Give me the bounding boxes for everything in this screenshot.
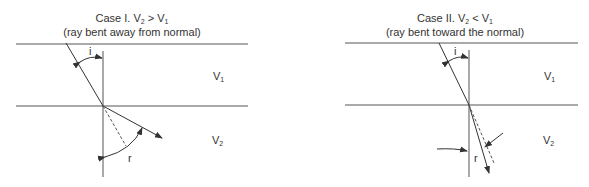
case2-angle-r-label: r <box>474 152 478 164</box>
case1-v2-label: V2 <box>212 134 223 150</box>
case1-angle-i-label: i <box>89 45 91 57</box>
case1-incident-ray <box>66 43 103 106</box>
case1-angle-r-label: r <box>128 152 132 164</box>
case2-angle-i-arc <box>449 57 468 61</box>
case1-refracted-ray <box>103 106 162 138</box>
case2-diagram <box>345 43 578 177</box>
case1-diagram <box>16 43 248 177</box>
case2-v2-label: V2 <box>543 134 554 150</box>
case1-angle-i-arc <box>80 57 102 62</box>
case2-angle-r-arrow-left <box>437 149 467 151</box>
case2-refracted-ray <box>469 105 489 173</box>
case2-v1-label: V1 <box>544 70 555 86</box>
case2-angle-i-label: i <box>454 45 456 57</box>
case2-angle-r-arrow-right <box>485 133 503 147</box>
case2-subtitle: (ray bent toward the normal) <box>365 26 545 39</box>
case2-undeviated-ray <box>469 105 494 163</box>
case1-subtitle: (ray bent away from normal) <box>42 26 222 39</box>
case1-v1-label: V1 <box>213 70 224 86</box>
